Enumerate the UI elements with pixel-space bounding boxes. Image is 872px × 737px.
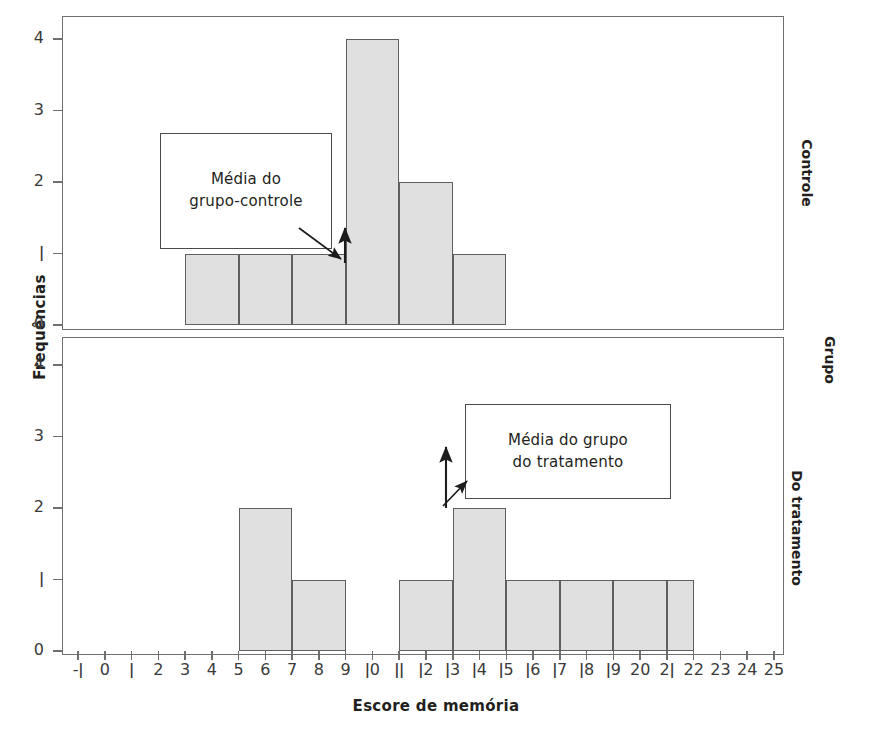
x-tick-label: 8 — [304, 662, 334, 678]
x-tick-mark — [184, 651, 186, 660]
annotation-line-1: Média do grupo — [508, 430, 628, 452]
histogram-bar — [346, 39, 400, 325]
x-tick-label: 2 — [143, 662, 173, 678]
y-tick-label: 2 — [18, 173, 44, 189]
x-tick-label: ǀ5 — [491, 662, 521, 678]
annotation-media-grupo-controle: Média do grupo-controle — [160, 133, 332, 249]
y-tick-mark — [53, 110, 62, 112]
x-tick-label: 4 — [197, 662, 227, 678]
y-tick-mark — [53, 38, 62, 40]
y-tick-label: 0 — [18, 316, 44, 332]
x-tick-mark — [211, 651, 213, 660]
x-tick-mark — [425, 651, 427, 660]
histogram-bar — [292, 254, 346, 326]
x-tick-mark — [720, 651, 722, 660]
x-tick-mark — [559, 651, 561, 660]
x-tick-label: 23 — [705, 662, 735, 678]
x-tick-label: ǀ0 — [357, 662, 387, 678]
x-tick-label: 22 — [679, 662, 709, 678]
x-tick-mark — [238, 651, 240, 660]
x-tick-label: ǀ2 — [411, 662, 441, 678]
x-tick-label: ǀ8 — [572, 662, 602, 678]
x-tick-mark — [158, 651, 160, 660]
x-tick-label: 2ǀ — [652, 662, 682, 678]
annotation-media-grupo-tratamento: Média do grupo do tratamento — [465, 404, 671, 499]
x-tick-mark — [773, 651, 775, 660]
x-tick-mark — [104, 651, 106, 660]
histogram-bar — [560, 580, 614, 652]
y-tick-mark — [53, 507, 62, 509]
histogram-bar — [506, 580, 560, 652]
x-tick-mark — [345, 651, 347, 660]
x-tick-mark — [506, 651, 508, 660]
x-tick-label: 9 — [331, 662, 361, 678]
x-tick-mark — [532, 651, 534, 660]
x-tick-mark — [398, 651, 400, 660]
x-tick-label: 0 — [90, 662, 120, 678]
x-tick-label: 24 — [732, 662, 762, 678]
x-tick-mark — [746, 651, 748, 660]
x-tick-mark — [372, 651, 374, 660]
annotation-line-2: grupo-controle — [189, 191, 303, 213]
x-tick-label: 7 — [277, 662, 307, 678]
right-axis-title: Grupo — [822, 300, 838, 420]
histogram-bar — [613, 580, 667, 652]
x-tick-mark — [131, 651, 133, 660]
figure-histogram-panels: Frequências Escore de memória Grupo Cont… — [0, 0, 872, 737]
y-tick-mark — [53, 324, 62, 326]
y-tick-label: 3 — [18, 102, 44, 118]
histogram-bar — [239, 508, 293, 651]
x-axis-title: Escore de memória — [0, 697, 872, 715]
x-tick-label: 3 — [170, 662, 200, 678]
panel-label-do-tratamento: Do tratamento — [789, 443, 805, 613]
x-tick-mark — [452, 651, 454, 660]
y-tick-mark — [53, 650, 62, 652]
x-tick-label: ǀ — [117, 662, 147, 678]
x-tick-label: ǀǀ — [384, 662, 414, 678]
x-tick-label: 20 — [625, 662, 655, 678]
x-tick-label: -ǀ — [63, 662, 93, 678]
y-tick-label: 3 — [18, 428, 44, 444]
y-tick-mark — [53, 579, 62, 581]
x-tick-label: ǀ9 — [598, 662, 628, 678]
x-tick-label: 6 — [250, 662, 280, 678]
x-tick-mark — [613, 651, 615, 660]
x-tick-mark — [265, 651, 267, 660]
histogram-bar — [453, 254, 507, 326]
x-tick-label: ǀ4 — [465, 662, 495, 678]
x-tick-label: 25 — [759, 662, 789, 678]
histogram-bar — [239, 254, 293, 326]
histogram-bar — [185, 254, 239, 326]
histogram-bar — [453, 508, 507, 651]
x-tick-mark — [693, 651, 695, 660]
x-tick-label: ǀ6 — [518, 662, 548, 678]
y-tick-label: 4 — [18, 356, 44, 372]
x-tick-label: 5 — [224, 662, 254, 678]
x-tick-mark — [639, 651, 641, 660]
x-tick-mark — [291, 651, 293, 660]
y-tick-label: 4 — [18, 30, 44, 46]
x-tick-mark — [318, 651, 320, 660]
annotation-line-1: Média do — [189, 169, 303, 191]
histogram-bar — [399, 580, 453, 652]
histogram-bar — [667, 580, 694, 652]
x-tick-label: ǀ7 — [545, 662, 575, 678]
x-tick-label: ǀ3 — [438, 662, 468, 678]
y-tick-label: ǀ — [18, 245, 44, 261]
y-tick-label: 0 — [18, 642, 44, 658]
histogram-bar — [399, 182, 453, 325]
histogram-bar — [292, 580, 346, 652]
y-tick-label: 2 — [18, 499, 44, 515]
panel-label-controle: Controle — [799, 88, 815, 258]
y-tick-mark — [53, 364, 62, 366]
y-tick-mark — [53, 436, 62, 438]
y-tick-mark — [53, 181, 62, 183]
x-tick-mark — [77, 651, 79, 660]
annotation-line-2: do tratamento — [508, 452, 628, 474]
y-tick-label: ǀ — [18, 571, 44, 587]
x-tick-mark — [586, 651, 588, 660]
y-tick-mark — [53, 253, 62, 255]
x-tick-mark — [479, 651, 481, 660]
x-tick-mark — [666, 651, 668, 660]
